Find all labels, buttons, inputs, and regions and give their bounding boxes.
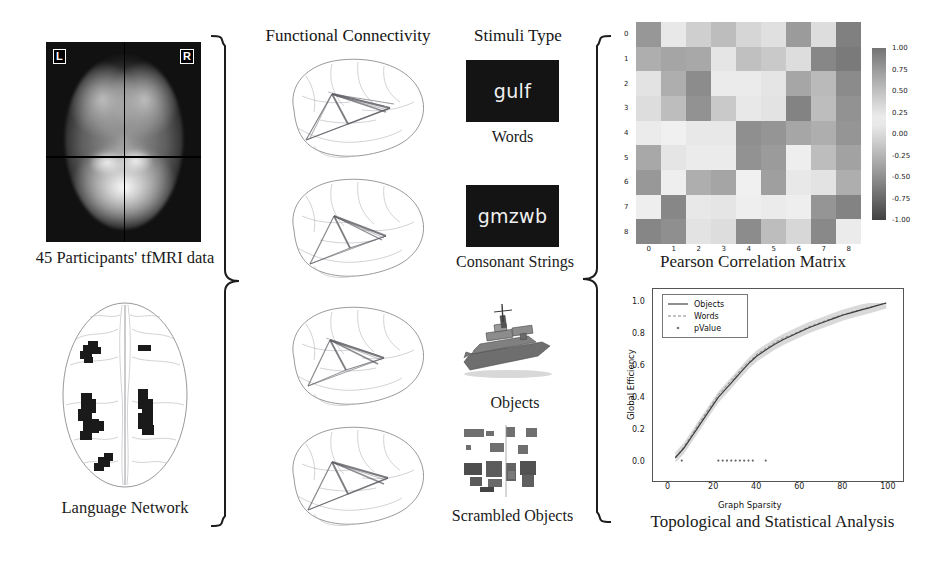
heatmap-cell-4-6 — [786, 121, 811, 146]
heatmap-cell-3-6 — [786, 96, 811, 121]
heatmap-cell-0-4 — [736, 22, 761, 47]
legend-item-words: Words — [667, 310, 743, 322]
brace-left — [205, 32, 247, 530]
chart-pvalue-marker — [743, 460, 745, 462]
legend-label-pvalue: pValue — [694, 324, 721, 333]
heatmap-cell-1-0 — [636, 47, 661, 72]
chart-pvalue-marker — [752, 460, 754, 462]
stimulus-scrambled-caption: Scrambled Objects — [425, 507, 600, 525]
stimulus-words-caption: Words — [455, 128, 570, 146]
heatmap-cell-2-1 — [661, 71, 686, 96]
heatmap-cell-5-6 — [786, 145, 811, 170]
heatmap-cell-3-4 — [736, 96, 761, 121]
heatmap-cell-5-8 — [836, 145, 861, 170]
heatmap-cell-1-5 — [761, 47, 786, 72]
chart-legend: Objects Words pValue — [662, 294, 748, 338]
heatmap-cell-1-3 — [711, 47, 736, 72]
chart-y-axis-title: Global Efficiency — [626, 349, 636, 420]
heatmap-ytick-6: 6 — [624, 178, 628, 186]
legend-line-solid — [667, 301, 689, 307]
heatmap-cell-7-4 — [736, 195, 761, 220]
connectivity-edges-3 — [308, 338, 384, 386]
stimulus-consonants-box: gmzwb — [466, 185, 559, 247]
heatmap-cell-5-2 — [686, 145, 711, 170]
chart-pvalue-marker — [722, 460, 724, 462]
legend-label-objects: Objects — [694, 300, 724, 309]
chart-ytick-0.8: 0.8 — [632, 329, 645, 338]
legend-line-dashed — [667, 313, 689, 319]
heatmap-cell-8-0 — [636, 219, 661, 244]
heatmap-cell-3-7 — [811, 96, 836, 121]
heatmap-cell-8-4 — [736, 219, 761, 244]
heatmap-ytick-0: 0 — [624, 30, 628, 38]
chart-ytick-0.0: 0.0 — [632, 457, 645, 466]
heatmap-caption: Pearson Correlation Matrix — [628, 252, 878, 272]
heatmap-cell-5-3 — [711, 145, 736, 170]
right-hemisphere-tag: R — [180, 49, 194, 64]
chart-xtick-0: 0 — [665, 482, 670, 491]
heatmap-cell-0-7 — [811, 22, 836, 47]
heatmap-cell-7-8 — [836, 195, 861, 220]
heatmap-cell-4-7 — [811, 121, 836, 146]
heatmap-cell-7-0 — [636, 195, 661, 220]
colorbar-tick-0: 1.00 — [892, 44, 908, 52]
stimulus-scrambled-objects — [462, 425, 562, 505]
legend-marker-dot — [667, 325, 689, 331]
pearson-correlation-heatmap — [636, 22, 861, 244]
legend-item-objects: Objects — [667, 298, 743, 310]
heatmap-cell-5-4 — [736, 145, 761, 170]
colorbar-tick-3: 0.25 — [892, 109, 908, 117]
heatmap-ytick-7: 7 — [624, 203, 628, 211]
heatmap-cell-4-2 — [686, 121, 711, 146]
heatmap-ytick-8: 8 — [624, 228, 628, 236]
heatmap-cell-3-0 — [636, 96, 661, 121]
heatmap-cell-8-1 — [661, 219, 686, 244]
heatmap-cell-6-0 — [636, 170, 661, 195]
colorbar-tick-6: -0.50 — [892, 173, 910, 181]
connectivity-edges-2 — [310, 216, 386, 264]
heatmap-cell-2-8 — [836, 71, 861, 96]
stimulus-consonants-text: gmzwb — [478, 205, 548, 227]
heatmap-ytick-1: 1 — [624, 55, 628, 63]
chart-pvalue-marker — [734, 460, 736, 462]
activation-clusters-left — [78, 341, 113, 471]
heatmap-cell-0-0 — [636, 22, 661, 47]
heatmap-colorbar — [872, 48, 886, 220]
heatmap-cell-2-3 — [711, 71, 736, 96]
crosshair-horizontal — [46, 156, 201, 158]
heatmap-cell-6-2 — [686, 170, 711, 195]
chart-xtick-60: 60 — [794, 482, 804, 491]
stimulus-words-box: gulf — [466, 60, 559, 122]
heatmap-cell-0-8 — [836, 22, 861, 47]
chart-pvalue-marker — [681, 460, 683, 462]
heatmap-ytick-2: 2 — [624, 80, 628, 88]
colorbar-tick-5: -0.25 — [892, 152, 910, 160]
analysis-caption: Topological and Statistical Analysis — [620, 512, 925, 532]
legend-item-pvalue: pValue — [667, 322, 743, 334]
colorbar-tick-1: 0.75 — [892, 66, 908, 74]
chart-ytick-0.2: 0.2 — [632, 425, 645, 434]
connectivity-brain-1 — [258, 52, 436, 170]
colorbar-tick-4: 0.00 — [892, 130, 908, 138]
connectivity-edges-1 — [306, 92, 394, 140]
heatmap-cell-4-3 — [711, 121, 736, 146]
chart-pvalue-marker — [747, 460, 749, 462]
heatmap-cell-8-3 — [711, 219, 736, 244]
heatmap-cell-6-8 — [836, 170, 861, 195]
heatmap-ytick-4: 4 — [624, 129, 628, 137]
heatmap-cell-0-3 — [711, 22, 736, 47]
chart-pvalue-marker — [730, 460, 732, 462]
heatmap-cell-6-6 — [786, 170, 811, 195]
chart-xtick-100: 100 — [880, 482, 895, 491]
heatmap-cell-3-1 — [661, 96, 686, 121]
stimulus-words-text: gulf — [494, 80, 531, 102]
heatmap-cell-1-1 — [661, 47, 686, 72]
brace-right — [575, 32, 617, 524]
chart-xtick-20: 20 — [708, 482, 718, 491]
heatmap-cell-1-8 — [836, 47, 861, 72]
connectivity-brain-3 — [258, 300, 436, 418]
heatmap-cell-1-7 — [811, 47, 836, 72]
heatmap-cell-0-5 — [761, 22, 786, 47]
colorbar-tick-8: -1.00 — [892, 216, 910, 224]
heatmap-cell-4-4 — [736, 121, 761, 146]
